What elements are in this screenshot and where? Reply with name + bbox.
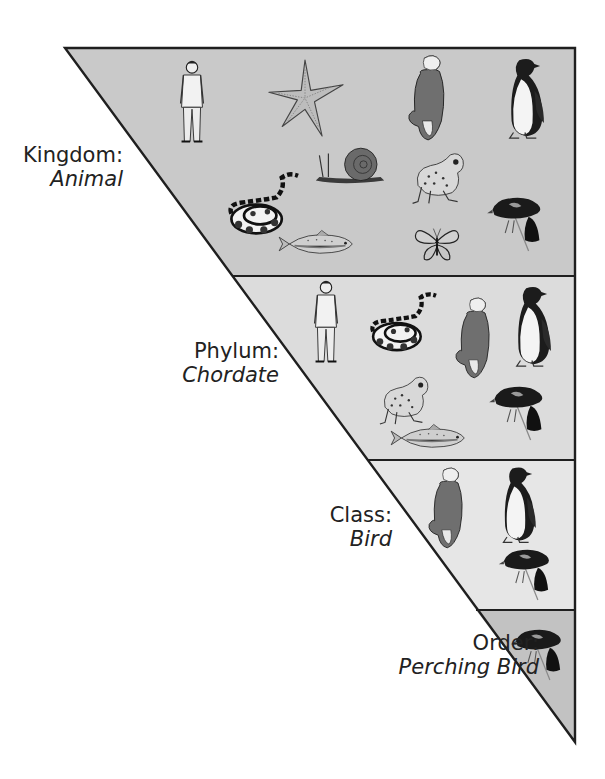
rank-name: Kingdom:	[23, 144, 123, 168]
taxon-name: Chordate	[182, 364, 279, 388]
label-order: Order: Perching Bird	[399, 632, 539, 679]
band-phylum	[232, 276, 575, 460]
label-kingdom: Kingdom: Animal	[23, 144, 123, 191]
taxon-name: Animal	[23, 168, 123, 192]
rank-name: Phylum:	[182, 340, 279, 364]
taxon-name: Perching Bird	[399, 656, 539, 680]
taxon-name: Bird	[330, 528, 392, 552]
rank-name: Order:	[399, 632, 539, 656]
rank-name: Class:	[330, 504, 392, 528]
label-class: Class: Bird	[330, 504, 392, 551]
label-phylum: Phylum: Chordate	[182, 340, 279, 387]
